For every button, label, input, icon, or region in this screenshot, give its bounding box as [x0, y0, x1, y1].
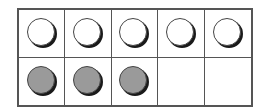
white-counter-icon: [213, 18, 241, 46]
ten-frame-cell: [65, 10, 111, 58]
white-counter-icon: [166, 18, 194, 46]
white-counter-icon: [27, 18, 55, 46]
ten-frame: [17, 8, 253, 107]
white-counter-icon: [119, 18, 147, 46]
ten-frame-cell: [158, 58, 204, 106]
gray-counter-icon: [73, 66, 101, 94]
ten-frame-cell: [205, 58, 251, 106]
ten-frame-cell: [19, 58, 65, 106]
ten-frame-cell: [205, 10, 251, 58]
ten-frame-cell: [112, 58, 158, 106]
ten-frame-cell: [65, 58, 111, 106]
gray-counter-icon: [27, 66, 55, 94]
gray-counter-icon: [119, 66, 147, 94]
ten-frame-cell: [19, 10, 65, 58]
white-counter-icon: [73, 18, 101, 46]
ten-frame-cell: [112, 10, 158, 58]
ten-frame-cell: [158, 10, 204, 58]
